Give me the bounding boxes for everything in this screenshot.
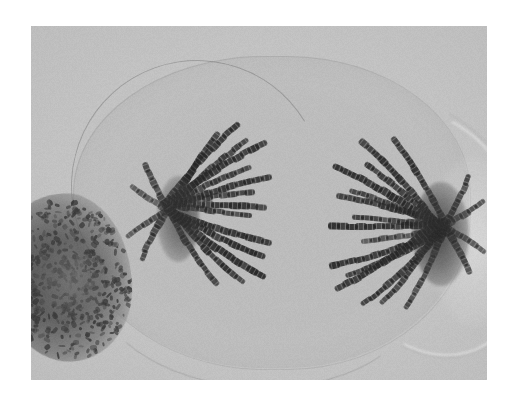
right-chromosome-group-inner-arm-3-segment xyxy=(463,263,473,276)
right-chromosome-group-inner-arm-2-segment xyxy=(474,244,487,255)
right-chromosome-group-chromosome-9-segment xyxy=(329,261,341,270)
screenshot-canvas: Mitosis — anaphase in a plant cell Black… xyxy=(0,0,517,403)
right-chromosome-group-chromosome-8-segment xyxy=(361,238,372,244)
right-chromosome-group-chromosome-13-segment xyxy=(380,294,391,305)
right-chromosome-group-chromosome-6-segment xyxy=(352,214,364,220)
right-chromosome-group-chromosome-14-segment xyxy=(402,298,413,310)
right-chromosome-group-chromosome-11-segment xyxy=(334,282,347,292)
right-chromosome-group-chromosome-5-segment xyxy=(335,193,347,201)
right-spindle-pole xyxy=(413,182,469,286)
right-chromosome-group-chromosome-7-segment xyxy=(328,223,340,230)
micrograph-image xyxy=(31,26,487,380)
right-chromosome-group-inner-arm-1-segment xyxy=(473,198,485,209)
right-chromosome-group-inner-arm-0-segment xyxy=(463,174,472,187)
right-chromosome-group-chromosome-0-segment xyxy=(389,135,401,148)
